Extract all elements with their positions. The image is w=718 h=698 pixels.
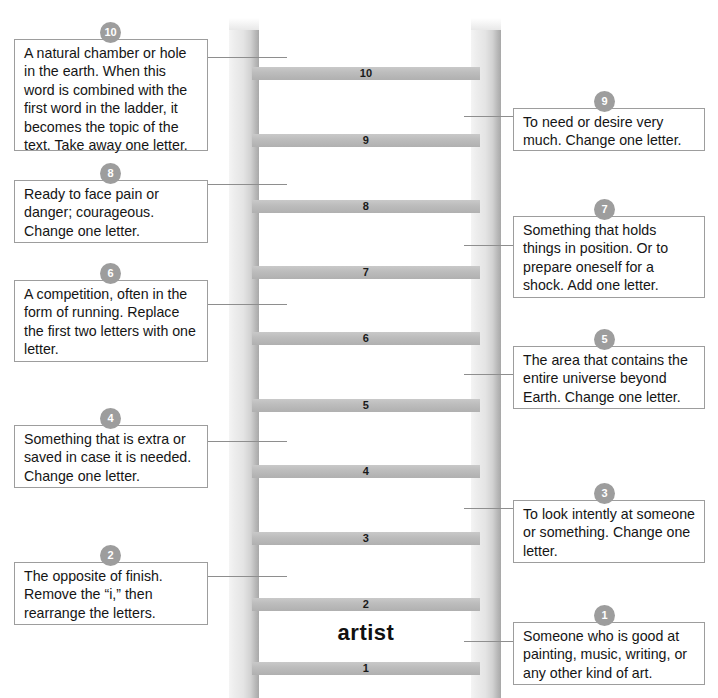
- clue-box-9[interactable]: To need or desire very much. Change one …: [513, 108, 705, 151]
- clue-badge-9: 9: [594, 91, 615, 112]
- ladder-rung-9: [252, 134, 480, 147]
- leader-line-2: [207, 576, 287, 577]
- clue-box-5[interactable]: The area that contains the entire univer…: [513, 346, 705, 409]
- clue-text-9: To need or desire very much. Change one …: [523, 113, 695, 150]
- clue-text-4: Something that is extra or saved in case…: [24, 430, 198, 485]
- leader-line-10: [207, 57, 287, 58]
- ladder-rung-4: [252, 465, 480, 478]
- clue-box-2[interactable]: The opposite of finish. Remove the “i,” …: [14, 562, 208, 625]
- clue-badge-6: 6: [100, 263, 121, 284]
- ladder-rung-7: [252, 266, 480, 279]
- clue-box-4[interactable]: Something that is extra or saved in case…: [14, 425, 208, 488]
- ladder-rung-5: [252, 399, 480, 412]
- ladder-rail-cap-right: [471, 18, 501, 30]
- ladder-rung-label-3: 3: [252, 532, 480, 545]
- clue-badge-10: 10: [100, 22, 121, 43]
- ladder-rung-label-7: 7: [252, 266, 480, 279]
- ladder-rung-2: [252, 598, 480, 611]
- leader-line-4: [207, 441, 287, 442]
- clue-text-8: Ready to face pain or danger; courageous…: [24, 185, 198, 240]
- clue-box-3[interactable]: To look intently at someone or something…: [513, 500, 705, 563]
- ladder-rung-label-4: 4: [252, 465, 480, 478]
- ladder-rung-1: [252, 662, 480, 675]
- clue-badge-8: 8: [100, 163, 121, 184]
- clue-badge-3: 3: [594, 483, 615, 504]
- clue-badge-2: 2: [100, 545, 121, 566]
- ladder-rung-label-8: 8: [252, 200, 480, 213]
- ladder-rung-label-6: 6: [252, 332, 480, 345]
- ladder-rung-label-1: 1: [252, 662, 480, 675]
- clue-text-7: Something that holds things in position.…: [523, 221, 695, 295]
- clue-text-3: To look intently at someone or something…: [523, 505, 695, 560]
- ladder-rung-8: [252, 200, 480, 213]
- ladder-rail-left: [229, 18, 259, 698]
- ladder-rail-right: [471, 18, 501, 698]
- clue-badge-7: 7: [594, 199, 615, 220]
- ladder-rung-3: [252, 532, 480, 545]
- leader-line-6: [207, 304, 287, 305]
- clue-badge-4: 4: [100, 408, 121, 429]
- clue-box-8[interactable]: Ready to face pain or danger; courageous…: [14, 180, 208, 243]
- clue-text-5: The area that contains the entire univer…: [523, 351, 695, 406]
- clue-text-10: A natural chamber or hole in the earth. …: [24, 44, 198, 155]
- clue-box-7[interactable]: Something that holds things in position.…: [513, 216, 705, 298]
- clue-box-10[interactable]: A natural chamber or hole in the earth. …: [14, 39, 208, 151]
- ladder-rung-label-5: 5: [252, 399, 480, 412]
- leader-line-8: [207, 184, 287, 185]
- clue-badge-5: 5: [594, 329, 615, 350]
- clue-text-2: The opposite of finish. Remove the “i,” …: [24, 567, 198, 622]
- ladder-start-word: artist: [252, 620, 480, 646]
- ladder-rung-label-2: 2: [252, 598, 480, 611]
- ladder-rung-10: [252, 67, 480, 80]
- clue-text-6: A competition, often in the form of runn…: [24, 285, 198, 359]
- ladder-rung-6: [252, 332, 480, 345]
- ladder-rung-label-9: 9: [252, 134, 480, 147]
- clue-text-1: Someone who is good at painting, music, …: [523, 627, 695, 682]
- clue-box-1[interactable]: Someone who is good at painting, music, …: [513, 622, 705, 685]
- clue-box-6[interactable]: A competition, often in the form of runn…: [14, 280, 208, 362]
- ladder-rung-label-10: 10: [252, 67, 480, 80]
- clue-badge-1: 1: [594, 605, 615, 626]
- ladder-rail-cap-left: [229, 18, 259, 30]
